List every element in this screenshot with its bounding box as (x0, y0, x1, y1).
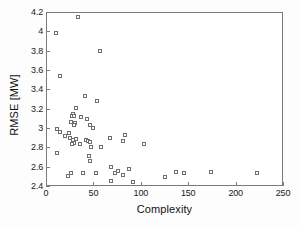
data-point (108, 136, 112, 140)
data-point (70, 142, 74, 146)
data-point (91, 126, 95, 130)
y-tick-mark (46, 51, 50, 52)
data-point (66, 174, 70, 178)
y-tick-label: 3.2 (3, 104, 43, 113)
data-point (55, 151, 59, 155)
data-point (142, 142, 146, 146)
y-tick-label: 4 (3, 27, 43, 36)
y-tick-label: 4.2 (3, 8, 43, 17)
data-point (174, 170, 178, 174)
data-point (123, 133, 127, 137)
data-point (89, 145, 93, 149)
data-point (85, 117, 89, 121)
x-tick-mark (141, 182, 142, 186)
x-tick-mark (236, 182, 237, 186)
y-tick-mark (46, 31, 50, 32)
data-point (99, 145, 103, 149)
x-tick-mark (283, 182, 284, 186)
x-tick-label: 200 (216, 188, 256, 198)
data-point (81, 171, 85, 175)
data-point (127, 167, 131, 171)
x-tick-mark (188, 182, 189, 186)
data-point (182, 171, 186, 175)
data-point (76, 15, 80, 19)
data-point (94, 171, 98, 175)
y-tick-mark (46, 167, 50, 168)
y-tick-label: 2.6 (3, 162, 43, 171)
x-tick-label: 150 (168, 188, 208, 198)
x-tick-label: 250 (263, 188, 299, 198)
data-point (58, 74, 62, 78)
y-tick-mark (46, 12, 50, 13)
data-point (109, 165, 113, 169)
data-point (79, 115, 83, 119)
x-tick-mark (46, 182, 47, 186)
data-point (88, 159, 92, 163)
data-point (113, 171, 117, 175)
data-point (72, 123, 76, 127)
data-point (74, 106, 78, 110)
data-point (54, 31, 58, 35)
data-point (95, 99, 99, 103)
x-tick-label: 100 (121, 188, 161, 198)
y-tick-label: 3.4 (3, 85, 43, 94)
y-tick-label: 2.8 (3, 143, 43, 152)
plot-area (46, 12, 283, 186)
y-tick-mark (46, 89, 50, 90)
data-point (109, 179, 113, 183)
figure-canvas: RMSE [MW] 2.42.62.833.23.43.63.844.2 050… (0, 0, 299, 227)
y-tick-mark (46, 186, 50, 187)
y-tick-mark (46, 70, 50, 71)
y-tick-mark (46, 147, 50, 148)
y-tick-mark (46, 109, 50, 110)
data-point (121, 139, 125, 143)
data-point (87, 154, 91, 158)
y-tick-mark (46, 128, 50, 129)
y-tick-label: 3 (3, 124, 43, 133)
data-point (255, 171, 259, 175)
data-point (88, 140, 92, 144)
data-point (98, 49, 102, 53)
x-tick-mark (93, 182, 94, 186)
data-point (72, 114, 76, 118)
x-tick-label: 0 (26, 188, 66, 198)
y-tick-label: 3.8 (3, 46, 43, 55)
data-point (63, 134, 67, 138)
data-point (209, 170, 213, 174)
x-tick-label: 50 (73, 188, 113, 198)
y-tick-label: 3.6 (3, 66, 43, 75)
data-point (83, 94, 87, 98)
data-point (131, 180, 135, 184)
data-point (121, 173, 125, 177)
data-point (78, 142, 82, 146)
x-axis-label: Complexity (46, 203, 283, 215)
data-point (67, 131, 71, 135)
data-point (163, 175, 167, 179)
data-point (58, 130, 62, 134)
